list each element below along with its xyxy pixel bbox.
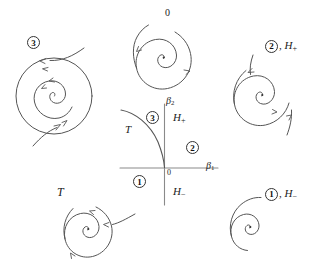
- portrait-bottom-right-suffix: , H−: [279, 188, 297, 201]
- bifurcation-figure: β2 β1 0 T H+ H− 3 2 1 3: [0, 0, 323, 269]
- portrait-bottom-right-label: 1 , H−: [265, 188, 297, 201]
- equilibrium-point: [249, 226, 251, 228]
- stable-focus-spiral: [231, 214, 259, 250]
- suffix-sign: −: [292, 192, 297, 201]
- portrait-bottom-right: [0, 0, 323, 269]
- portrait-bottom-right-circled-number: 1: [265, 188, 278, 201]
